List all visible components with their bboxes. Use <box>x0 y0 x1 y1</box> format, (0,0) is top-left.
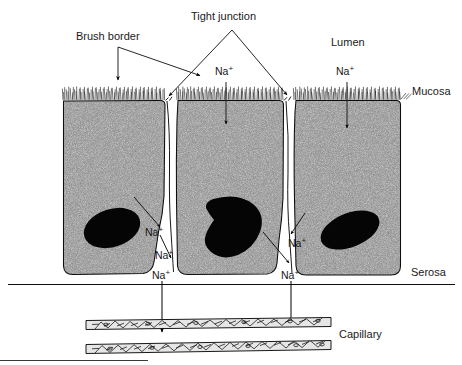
capillary-upper-wall <box>86 318 331 330</box>
ion-charge: + <box>349 64 354 73</box>
ion-charge: + <box>158 225 163 234</box>
ion-symbol: Na <box>288 237 301 249</box>
ion-label-right-cleft-1: Na+ <box>288 238 306 249</box>
epithelial-cell-left <box>60 98 170 278</box>
ion-label-left-cleft-1: Na+ <box>145 227 163 238</box>
intercellular-space-left <box>167 101 174 272</box>
capillary-lower-wall <box>86 340 331 354</box>
ion-label-lumen-right: Na+ <box>336 66 354 77</box>
brush-border-microvilli <box>62 86 411 100</box>
ion-label-lumen-left: Na+ <box>215 66 233 77</box>
label-lumen: Lumen <box>331 37 365 49</box>
label-mucosa: Mucosa <box>412 86 451 98</box>
label-tight-junction: Tight junction <box>191 11 256 23</box>
ion-label-right-cleft-2: Na+ <box>281 270 299 281</box>
ion-symbol: Na <box>155 249 168 261</box>
ion-symbol: Na <box>145 226 158 238</box>
ion-charge: + <box>165 268 170 277</box>
ion-symbol: Na <box>215 65 228 77</box>
label-serosa: Serosa <box>411 267 446 279</box>
ion-charge: + <box>228 64 233 73</box>
tight-junction-marks <box>166 97 292 101</box>
epithelial-cell-middle <box>173 98 288 278</box>
ion-charge: + <box>301 236 306 245</box>
ion-label-left-cleft-2: Na+ <box>155 250 173 261</box>
leader-brush-border <box>118 47 200 80</box>
ion-charge: + <box>294 268 299 277</box>
ion-charge: + <box>168 248 173 257</box>
ion-symbol: Na <box>281 269 294 281</box>
ion-symbol: Na <box>152 269 165 281</box>
sodium-transport-figure <box>0 0 462 365</box>
ion-symbol: Na <box>336 65 349 77</box>
diagram-canvas: Brush border Tight junction Lumen Mucosa… <box>0 0 462 365</box>
label-brush-border: Brush border <box>76 31 140 43</box>
label-capillary: Capillary <box>339 329 382 341</box>
ion-label-left-cleft-3: Na+ <box>152 270 170 281</box>
